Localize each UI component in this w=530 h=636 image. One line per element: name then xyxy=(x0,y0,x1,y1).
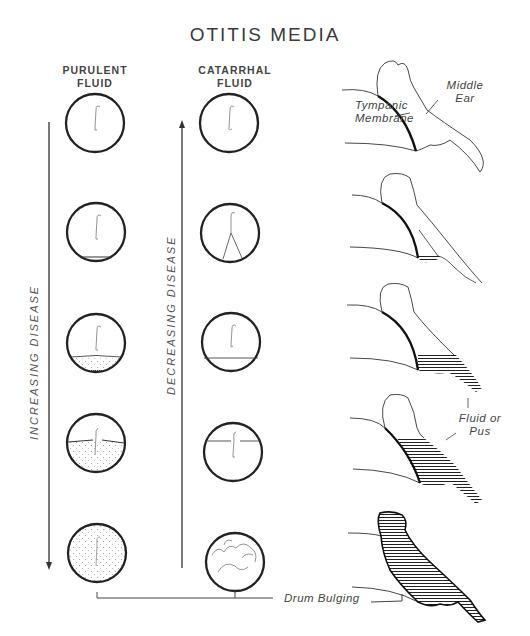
decreasing-arrow xyxy=(179,120,185,568)
purulent-stage-4 xyxy=(66,414,128,474)
purulent-stage-3 xyxy=(67,314,125,372)
catarrhal-stage-4 xyxy=(204,423,262,481)
ear-section-3 xyxy=(347,283,482,408)
catarrhal-stage-1 xyxy=(200,94,258,152)
tympanic-label-line2: Membrane xyxy=(355,112,414,125)
purulent-stage-1 xyxy=(66,94,124,152)
middle-ear-label-line2: Ear xyxy=(440,92,490,105)
tympanic-membrane-label: Tympanic Membrane xyxy=(355,99,414,125)
middle-ear-label-line1: Middle xyxy=(440,79,490,92)
ear-section-2 xyxy=(350,174,482,284)
increasing-arrow xyxy=(46,122,52,570)
purulent-stage-2 xyxy=(67,203,125,261)
purulent-stage-5 xyxy=(68,524,126,582)
tympanic-label-line1: Tympanic xyxy=(355,99,414,112)
fluid-or-pus-label: Fluid or Pus xyxy=(452,412,508,438)
catarrhal-stage-3 xyxy=(202,313,260,371)
fluid-label-line1: Fluid or xyxy=(452,412,508,425)
drum-bulging-label: Drum Bulging xyxy=(281,592,363,605)
ear-section-4 xyxy=(350,394,482,504)
ear-section-5 xyxy=(348,512,485,622)
catarrhal-stage-2 xyxy=(201,204,259,262)
fluid-label-line2: Pus xyxy=(452,425,508,438)
middle-ear-label: Middle Ear xyxy=(440,79,490,105)
catarrhal-stage-5 xyxy=(206,533,264,591)
